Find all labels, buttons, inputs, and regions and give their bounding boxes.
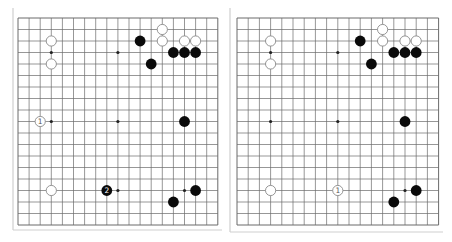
white-stone: [266, 185, 276, 195]
white-stone: [46, 185, 56, 195]
black-stone: 2: [101, 185, 112, 196]
star-point: [50, 120, 53, 123]
white-stone: [266, 36, 276, 46]
black-stone: [355, 36, 366, 47]
star-point: [403, 189, 406, 192]
black-stone: [411, 185, 422, 196]
black-stone: [411, 47, 422, 58]
white-stone: [411, 36, 421, 46]
white-stone: [157, 24, 167, 34]
black-stone: [146, 59, 157, 70]
white-stone: [400, 36, 410, 46]
star-point: [50, 51, 53, 54]
white-stone: [157, 36, 167, 46]
black-stone: [168, 47, 179, 58]
white-stone: [179, 36, 189, 46]
go-diagram: 12 1: [0, 0, 452, 242]
black-stone: [135, 36, 146, 47]
star-point: [336, 120, 339, 123]
go-board-right: 1: [230, 8, 443, 232]
star-point: [116, 120, 119, 123]
black-stone: [179, 116, 190, 127]
white-stone: [46, 59, 56, 69]
star-point: [269, 51, 272, 54]
black-stone: [388, 47, 399, 58]
move-number-label: 1: [38, 117, 43, 126]
star-point: [116, 189, 119, 192]
black-stone: [190, 185, 201, 196]
white-stone: 1: [333, 185, 343, 195]
move-number-label: 2: [104, 186, 109, 195]
white-stone: [378, 36, 388, 46]
black-stone: [190, 47, 201, 58]
black-stone: [400, 47, 411, 58]
star-point: [183, 189, 186, 192]
white-stone: [378, 24, 388, 34]
white-stone: [266, 59, 276, 69]
black-stone: [168, 197, 179, 208]
go-board-left: 12: [13, 8, 222, 230]
black-stone: [179, 47, 190, 58]
star-point: [116, 51, 119, 54]
move-number-label: 1: [335, 186, 340, 195]
black-stone: [400, 116, 411, 127]
star-point: [336, 51, 339, 54]
star-point: [269, 120, 272, 123]
black-stone: [388, 197, 399, 208]
white-stone: [191, 36, 201, 46]
black-stone: [366, 59, 377, 70]
white-stone: [46, 36, 56, 46]
white-stone: 1: [35, 116, 45, 126]
